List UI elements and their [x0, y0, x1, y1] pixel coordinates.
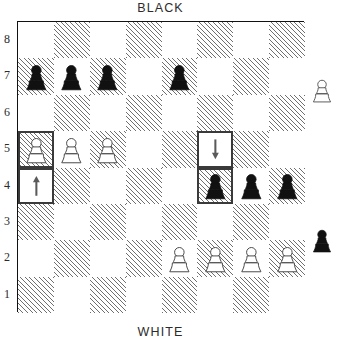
rank-label-7: 7 [0, 57, 14, 93]
board-square-a1[interactable] [18, 277, 54, 313]
board-square-h3[interactable] [269, 204, 305, 240]
board-square-e5[interactable] [162, 131, 198, 167]
board-square-c8[interactable] [90, 22, 126, 58]
board-square-d5[interactable] [126, 131, 162, 167]
board-square-b4[interactable] [54, 168, 90, 204]
board-square-d3[interactable] [126, 204, 162, 240]
board-square-b5[interactable] [54, 131, 90, 167]
rank-label-2: 2 [0, 239, 14, 275]
rank-label-4: 4 [0, 167, 14, 203]
board-square-g5[interactable] [233, 131, 269, 167]
board-square-c4[interactable] [90, 168, 126, 204]
rank-label-column: 87654321 [0, 21, 16, 312]
board-square-c2[interactable] [90, 240, 126, 276]
board-square-f1[interactable] [197, 277, 233, 313]
board-square-b7[interactable] [54, 58, 90, 94]
rank-label-6: 6 [0, 94, 14, 130]
board-square-e7[interactable] [162, 58, 198, 94]
board-square-c3[interactable] [90, 204, 126, 240]
board-square-g8[interactable] [233, 22, 269, 58]
board-square-g2[interactable] [233, 240, 269, 276]
board-square-d1[interactable] [126, 277, 162, 313]
board-square-a2[interactable] [18, 240, 54, 276]
board-square-e1[interactable] [162, 277, 198, 313]
board-square-b6[interactable] [54, 95, 90, 131]
board-square-h2[interactable] [269, 240, 305, 276]
board-square-b1[interactable] [54, 277, 90, 313]
rank-label-3: 3 [0, 203, 14, 239]
board-square-f4[interactable] [197, 168, 233, 204]
offboard-black-pawn[interactable] [310, 228, 334, 254]
board-square-d8[interactable] [126, 22, 162, 58]
board-square-c7[interactable] [90, 58, 126, 94]
board-square-g1[interactable] [233, 277, 269, 313]
board-square-f3[interactable] [197, 204, 233, 240]
black-side-label: BLACK [0, 1, 321, 15]
board-square-f6[interactable] [197, 95, 233, 131]
board-square-h5[interactable] [269, 131, 305, 167]
offboard-white-pawn[interactable] [310, 78, 334, 104]
board-square-d7[interactable] [126, 58, 162, 94]
board-square-a6[interactable] [18, 95, 54, 131]
board-square-b8[interactable] [54, 22, 90, 58]
board-square-c6[interactable] [90, 95, 126, 131]
board-square-f2[interactable] [197, 240, 233, 276]
board-square-h6[interactable] [269, 95, 305, 131]
board-square-d6[interactable] [126, 95, 162, 131]
board-square-d2[interactable] [126, 240, 162, 276]
board-square-b3[interactable] [54, 204, 90, 240]
board-square-a3[interactable] [18, 204, 54, 240]
arrow-up-icon [31, 173, 42, 199]
board-square-g4[interactable] [233, 168, 269, 204]
board-square-h7[interactable] [269, 58, 305, 94]
board-square-e3[interactable] [162, 204, 198, 240]
rank-label-1: 1 [0, 276, 14, 312]
board-square-g3[interactable] [233, 204, 269, 240]
board-square-a5[interactable] [18, 131, 54, 167]
board-square-h1[interactable] [269, 277, 305, 313]
board-square-c1[interactable] [90, 277, 126, 313]
rank-label-5: 5 [0, 130, 14, 166]
board-square-e8[interactable] [162, 22, 198, 58]
rank-label-8: 8 [0, 21, 14, 57]
board-square-f7[interactable] [197, 58, 233, 94]
board-square-h4[interactable] [269, 168, 305, 204]
board-square-h8[interactable] [269, 22, 305, 58]
board-square-g6[interactable] [233, 95, 269, 131]
chess-board[interactable] [17, 21, 304, 312]
board-square-a8[interactable] [18, 22, 54, 58]
board-square-c5[interactable] [90, 131, 126, 167]
board-squares [18, 22, 303, 311]
chess-diagram: BLACK WHITE 87654321 [0, 0, 337, 339]
board-square-a7[interactable] [18, 58, 54, 94]
board-square-d4[interactable] [126, 168, 162, 204]
board-square-f8[interactable] [197, 22, 233, 58]
board-square-e4[interactable] [162, 168, 198, 204]
arrow-down-icon [210, 136, 221, 162]
board-square-g7[interactable] [233, 58, 269, 94]
board-square-b2[interactable] [54, 240, 90, 276]
white-side-label: WHITE [0, 325, 321, 339]
board-square-e2[interactable] [162, 240, 198, 276]
board-square-e6[interactable] [162, 95, 198, 131]
